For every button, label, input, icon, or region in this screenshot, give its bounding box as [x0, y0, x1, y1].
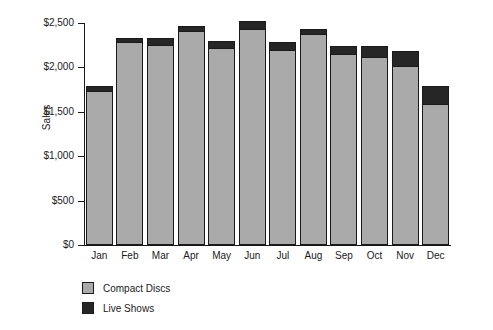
bar-segment[interactable] [147, 38, 174, 47]
bar-segment[interactable] [86, 86, 113, 92]
bar-segment[interactable] [239, 29, 266, 245]
bar-segment[interactable] [361, 46, 388, 58]
x-axis-labels: JanFebMarAprMayJunJulAugSepOctNovDec [84, 250, 451, 266]
bar-segment[interactable] [116, 38, 143, 44]
x-tick-label: Dec [420, 250, 451, 261]
bar-segment[interactable] [269, 50, 296, 245]
x-tick-label: May [206, 250, 237, 261]
bar-segment[interactable] [178, 26, 205, 32]
bar-segment[interactable] [116, 42, 143, 245]
bars-layer [84, 23, 451, 245]
legend-label: Compact Discs [103, 283, 170, 294]
x-tick-label: Jan [84, 250, 115, 261]
bar-group[interactable] [208, 23, 235, 245]
bar-segment[interactable] [208, 48, 235, 245]
bar-segment[interactable] [392, 66, 419, 245]
y-tick-label: $0 [4, 239, 74, 250]
bar-group[interactable] [269, 23, 296, 245]
bar-group[interactable] [422, 23, 449, 245]
bar-group[interactable] [147, 23, 174, 245]
legend-label: Live Shows [103, 303, 154, 314]
bar-group[interactable] [392, 23, 419, 245]
bar-segment[interactable] [361, 57, 388, 245]
bar-segment[interactable] [147, 45, 174, 245]
bar-group[interactable] [239, 23, 266, 245]
bar-segment[interactable] [208, 41, 235, 49]
stacked-bar-chart: Sales $0$500$1,000$1,500$2,000$2,500 Jan… [0, 0, 493, 330]
bar-segment[interactable] [269, 42, 296, 51]
bar-segment[interactable] [300, 34, 327, 245]
x-tick-label: Sep [329, 250, 360, 261]
bar-group[interactable] [300, 23, 327, 245]
y-tick-mark [78, 245, 84, 246]
bar-segment[interactable] [330, 54, 357, 245]
x-tick-label: Nov [390, 250, 421, 261]
bar-group[interactable] [361, 23, 388, 245]
x-tick-label: Mar [145, 250, 176, 261]
x-tick-label: Oct [359, 250, 390, 261]
y-tick-label: $2,500 [4, 17, 74, 28]
x-tick-label: Jul [268, 250, 299, 261]
y-tick-label: $2,000 [4, 61, 74, 72]
chart-legend: Compact DiscsLive Shows [82, 278, 170, 318]
y-tick-label: $500 [4, 195, 74, 206]
x-tick-label: Aug [298, 250, 329, 261]
bar-segment[interactable] [392, 51, 419, 67]
bar-group[interactable] [116, 23, 143, 245]
bar-segment[interactable] [422, 104, 449, 245]
x-tick-label: Apr [176, 250, 207, 261]
bar-segment[interactable] [330, 46, 357, 56]
x-tick-label: Feb [115, 250, 146, 261]
bar-group[interactable] [86, 23, 113, 245]
y-tick-label: $1,500 [4, 106, 74, 117]
bar-segment[interactable] [86, 91, 113, 245]
bar-segment[interactable] [178, 31, 205, 245]
bar-segment[interactable] [239, 21, 266, 30]
bar-segment[interactable] [422, 86, 449, 105]
x-axis-line [84, 245, 451, 246]
bar-group[interactable] [330, 23, 357, 245]
legend-item[interactable]: Live Shows [82, 298, 170, 318]
bar-segment[interactable] [300, 29, 327, 35]
legend-swatch [82, 282, 94, 294]
bar-group[interactable] [178, 23, 205, 245]
legend-item[interactable]: Compact Discs [82, 278, 170, 298]
y-tick-label: $1,000 [4, 150, 74, 161]
legend-swatch [82, 302, 94, 314]
x-tick-label: Jun [237, 250, 268, 261]
